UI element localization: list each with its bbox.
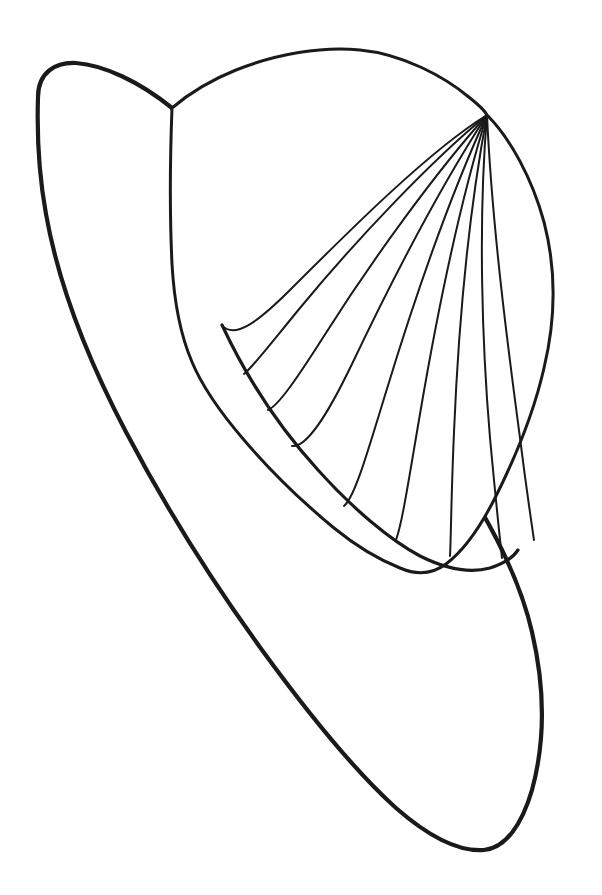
hat-line-art-svg [0,0,602,895]
illustration-canvas [0,0,602,895]
